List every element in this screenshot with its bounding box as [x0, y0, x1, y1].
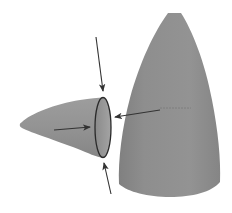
arrow-bottom-icon	[104, 163, 111, 194]
cone-diagram	[0, 0, 232, 213]
small-cone	[20, 98, 111, 159]
large-cone-body	[119, 13, 220, 197]
large-cone	[119, 13, 220, 197]
small-cone-body	[20, 98, 104, 159]
small-cone-rim-opening	[95, 98, 111, 158]
arrow-top-icon	[96, 37, 103, 91]
